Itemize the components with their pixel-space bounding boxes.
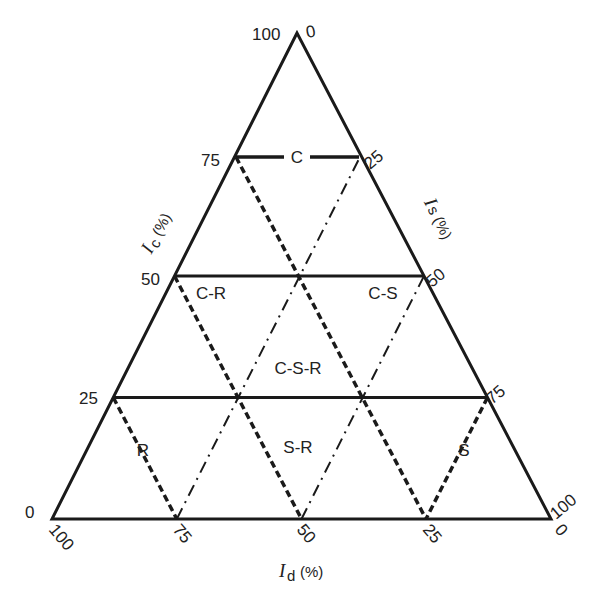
tick-right-50: 50 [422,264,449,291]
region-csr: C-S-R [274,359,321,378]
tick-apex-right: 0 [304,22,317,42]
dashdot-lines [177,159,424,519]
axis-title-right: I s (%) [420,193,459,242]
tick-bottom-75: 75 [169,520,196,547]
tick-bottom-50: 50 [293,520,320,547]
svg-text:(%): (%) [148,210,174,239]
svg-text:I: I [278,560,287,581]
axis-title-left: I c (%) [136,209,177,259]
tick-apex-left: 100 [252,25,280,44]
svg-text:(%): (%) [430,213,456,242]
region-sr: S-R [283,438,312,457]
tick-bottom-25: 25 [419,520,446,547]
region-s: S [458,441,469,460]
region-cs: C-S [368,284,397,303]
region-cr: C-R [196,284,226,303]
svg-text:(%): (%) [300,563,323,580]
tick-left-50: 50 [141,270,160,289]
tick-bottom-100: 100 [45,520,78,554]
ternary-diagram: 100 0 75 50 25 0 25 50 75 100 100 75 50 … [0,0,602,602]
tick-bottom-0: 0 [551,520,572,539]
tick-left-25: 25 [79,389,98,408]
tick-left-0: 0 [25,503,34,522]
region-c: C [291,148,303,167]
tick-right-75: 75 [482,381,509,408]
tick-right-25: 25 [360,146,387,173]
tick-left-75: 75 [201,151,220,170]
axis-title-bottom: I d (%) [278,560,323,584]
svg-text:d: d [287,567,295,584]
region-r: R [137,441,149,460]
